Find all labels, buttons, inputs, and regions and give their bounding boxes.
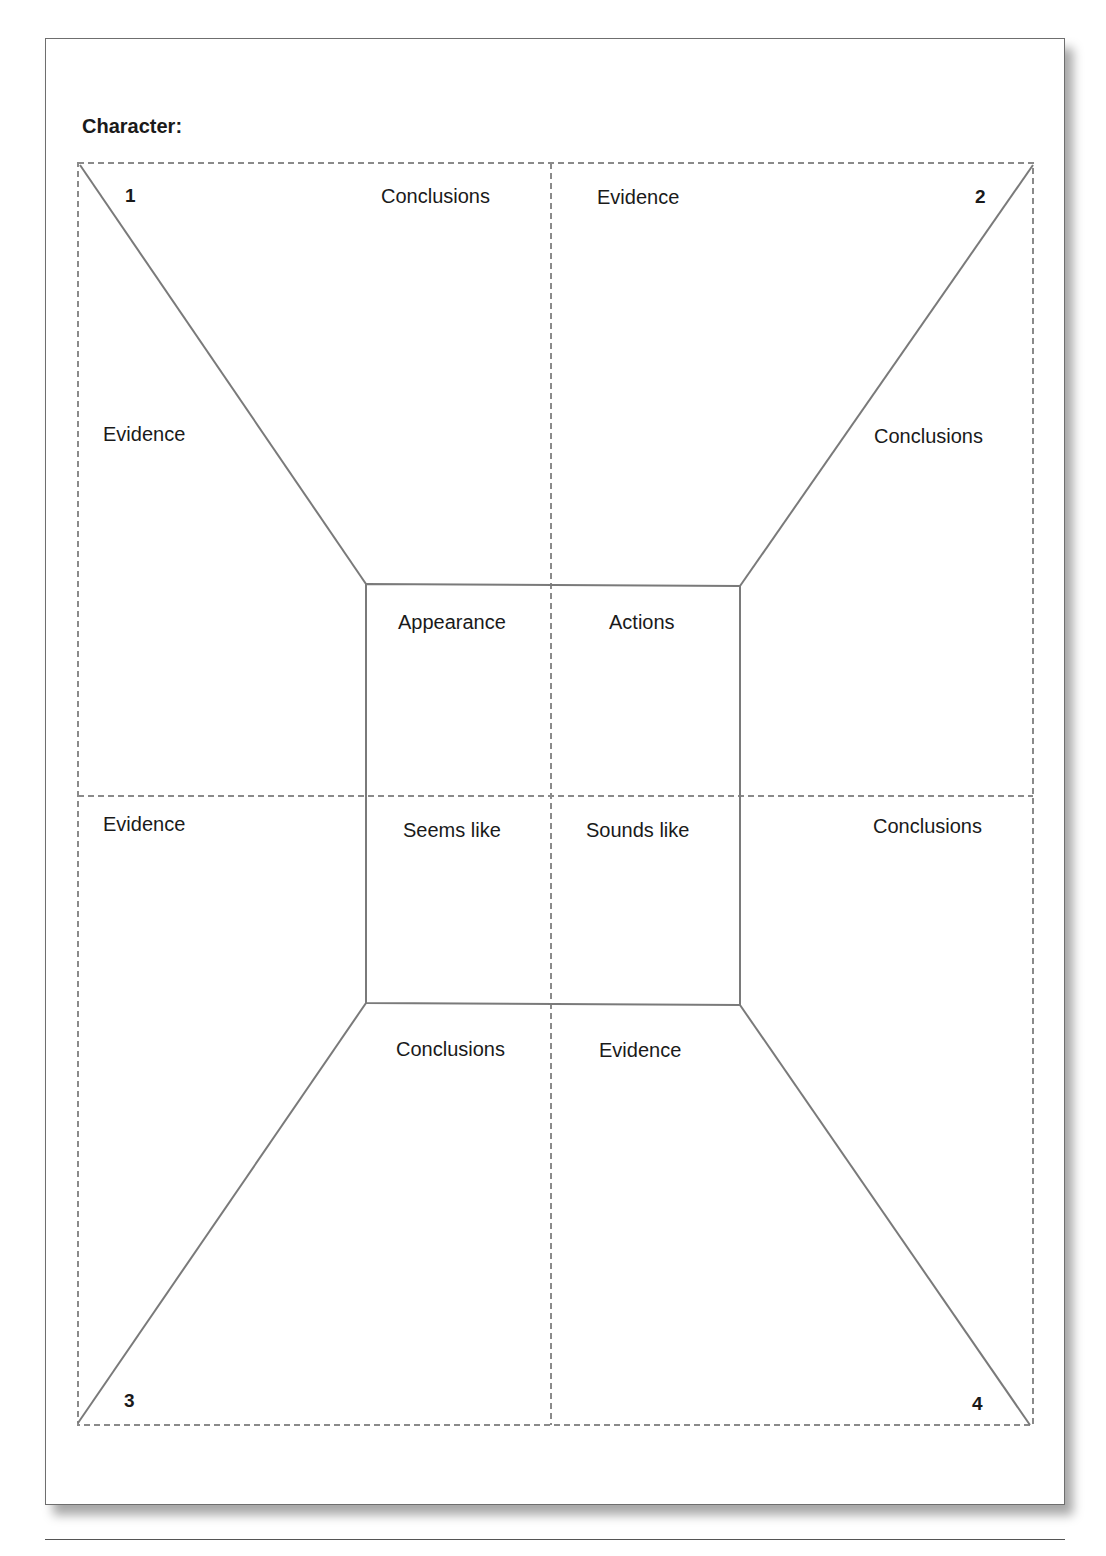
outer-dashed-border (78, 163, 1033, 1425)
quadrant-number-4: 4 (972, 1393, 983, 1415)
q2-conclusions-label: Conclusions (874, 425, 983, 447)
q3-evidence-label: Evidence (103, 813, 185, 835)
character-title: Character: (82, 115, 182, 137)
quadrant-number-1: 1 (125, 185, 136, 207)
quadrant-number-2: 2 (975, 186, 986, 208)
q4-conclusions-label: Conclusions (873, 815, 982, 837)
q4-evidence-label: Evidence (599, 1039, 681, 1061)
appearance-label: Appearance (398, 611, 506, 633)
center-square (366, 584, 740, 1005)
seems-like-label: Seems like (403, 819, 501, 841)
q3-conclusions-label: Conclusions (396, 1038, 505, 1060)
quadrant-number-3: 3 (124, 1390, 135, 1412)
q2-evidence-label: Evidence (597, 186, 679, 208)
q1-conclusions-label: Conclusions (381, 185, 490, 207)
character-diagram (0, 0, 1106, 1556)
actions-label: Actions (609, 611, 675, 633)
q1-evidence-label: Evidence (103, 423, 185, 445)
sounds-like-label: Sounds like (586, 819, 689, 841)
diagonal-top-left (80, 165, 366, 584)
diagonal-bottom-left (78, 1003, 366, 1423)
diagonal-bottom-right (740, 1005, 1030, 1425)
footer-divider (45, 1539, 1065, 1540)
diagonal-top-right (740, 165, 1033, 586)
